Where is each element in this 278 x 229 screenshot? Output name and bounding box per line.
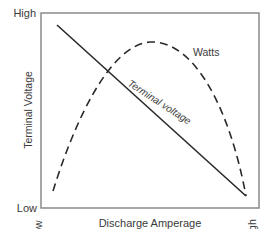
y-axis-title: Terminal Voltage — [22, 71, 34, 149]
x-tick-high: High — [246, 219, 258, 229]
watts-curve — [53, 42, 246, 196]
x-tick-low: Low — [32, 220, 44, 229]
watts-label: Watts — [193, 46, 219, 58]
x-axis-title: Discharge Amperage — [99, 217, 202, 229]
y-tick-low: Low — [17, 202, 37, 214]
chart: High Low Terminal Voltage Low High Disch… — [0, 0, 278, 229]
terminal-voltage-label: Terminal voltage — [126, 77, 194, 126]
y-tick-high: High — [13, 7, 36, 19]
